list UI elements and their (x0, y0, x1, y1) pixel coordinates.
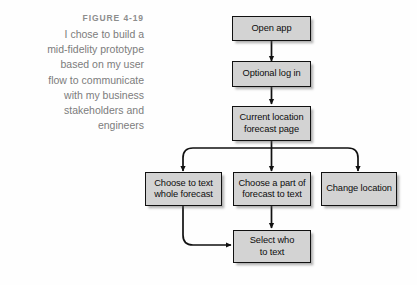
node-optional-log-in-line: Optional log in (243, 68, 301, 79)
edge-current-location-to-change-location (272, 148, 359, 171)
node-current-location-line: forecast page (239, 124, 303, 135)
edge-text-whole-to-select-who (183, 206, 231, 245)
node-open-app-line: Open app (251, 23, 291, 34)
flowchart-connectors (0, 0, 417, 285)
node-choose-to-text-whole-forecast[interactable]: Choose to text whole forecast (145, 172, 222, 206)
edge-current-location-to-text-whole (183, 148, 272, 171)
node-optional-log-in[interactable]: Optional log in (232, 61, 311, 87)
node-change-location[interactable]: Change location (321, 172, 397, 206)
node-current-location-forecast-page[interactable]: Current location forecast page (232, 106, 311, 141)
node-text-part-line: Choose a part of (238, 178, 305, 189)
node-select-who-line: to text (250, 247, 294, 258)
node-text-part-line: forecast to text (238, 189, 305, 200)
node-select-who-to-text[interactable]: Select who to text (233, 230, 311, 263)
node-choose-a-part-of-forecast-to-text[interactable]: Choose a part of forecast to text (233, 172, 311, 206)
node-select-who-line: Select who (250, 235, 294, 246)
node-text-whole-line: Choose to text (154, 178, 213, 189)
flowchart: Open app Optional log in Current locatio… (0, 0, 417, 285)
figure-page: FIGURE 4-19 I chose to build a mid-fidel… (0, 0, 417, 285)
node-text-whole-line: whole forecast (154, 189, 213, 200)
node-open-app[interactable]: Open app (232, 16, 311, 41)
node-change-location-line: Change location (326, 183, 392, 194)
node-current-location-line: Current location (239, 112, 303, 123)
